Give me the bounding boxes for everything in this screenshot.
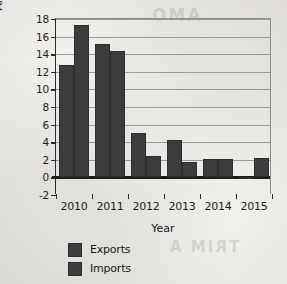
chart-legend: Exports Imports: [68, 240, 131, 278]
y-axis-tick: [51, 72, 56, 73]
x-axis-tick-label: 2012: [133, 200, 160, 213]
legend-item-exports: Exports: [68, 240, 131, 259]
y-axis-tick: [51, 19, 56, 20]
x-axis-tick: [200, 194, 201, 199]
x-axis-tick: [92, 194, 93, 199]
y-axis-tick: [51, 89, 56, 90]
x-axis-tick-label: 2013: [169, 200, 196, 213]
legend-swatch-exports: [68, 243, 82, 257]
y-axis-title: Annual growth (%): [0, 0, 5, 36]
legend-label-imports: Imports: [90, 262, 131, 275]
legend-swatch-imports: [68, 262, 82, 276]
y-axis-tick-label: 14: [36, 48, 49, 60]
bar-exports-2013: [167, 140, 182, 178]
y-axis-tick-label: 10: [36, 83, 49, 95]
y-axis-tick: [51, 107, 56, 108]
y-axis-tick-label: 0: [43, 171, 49, 183]
bar-exports-2015: [239, 177, 254, 179]
x-axis-tick: [56, 194, 57, 199]
y-axis-tick: [51, 160, 56, 161]
bar-imports-2015: [254, 158, 269, 177]
plot-area: -202468101214161820102011201220132014201…: [55, 18, 271, 194]
bar-imports-2014: [218, 159, 233, 177]
bar-imports-2012: [146, 156, 161, 177]
y-axis-tick-label: 4: [43, 136, 49, 148]
y-axis-tick-label: 18: [36, 13, 49, 25]
y-axis-tick-label: 16: [36, 31, 49, 43]
x-axis-tick: [164, 194, 165, 199]
x-axis-tick: [128, 194, 129, 199]
y-axis-tick: [51, 142, 56, 143]
bar-imports-2011: [110, 51, 125, 178]
x-axis-title: Year: [55, 222, 271, 235]
bar-exports-2011: [95, 44, 110, 178]
bar-chart: Annual growth (%) -202468101214161820102…: [0, 0, 287, 284]
x-axis-tick-label: 2011: [97, 200, 124, 213]
y-axis-tick-label: 8: [43, 101, 49, 113]
y-axis-tick: [51, 54, 56, 55]
y-axis-tick-label: 2: [43, 154, 49, 166]
x-axis-tick: [272, 194, 273, 199]
y-axis-tick-label: 6: [43, 119, 49, 131]
x-axis-tick-label: 2014: [205, 200, 232, 213]
bar-exports-2010: [59, 65, 74, 178]
gridline: [56, 19, 270, 20]
y-axis-tick-label: 12: [36, 66, 49, 78]
x-axis-tick-label: 2015: [241, 200, 268, 213]
y-axis-tick-label: -2: [39, 189, 49, 201]
legend-label-exports: Exports: [90, 243, 130, 256]
bar-imports-2010: [74, 25, 89, 177]
y-axis-tick: [51, 125, 56, 126]
bar-exports-2012: [131, 133, 146, 178]
x-axis-tick-label: 2010: [61, 200, 88, 213]
y-axis-tick: [51, 37, 56, 38]
bar-exports-2014: [203, 159, 218, 177]
x-axis-tick: [236, 194, 237, 199]
bar-imports-2013: [182, 162, 197, 178]
legend-item-imports: Imports: [68, 259, 131, 278]
